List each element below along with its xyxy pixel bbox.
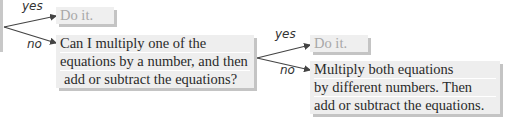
question-line-2: equations by a number, and then — [60, 53, 250, 71]
branch2-yes-label: yes — [275, 27, 296, 41]
result-line-2: by different numbers. Then — [314, 79, 496, 97]
question-line-1: Can I multiply one of the — [60, 35, 250, 53]
question-box: Can I multiply one of the equations by a… — [56, 35, 254, 88]
branch1-no-label: no — [27, 37, 42, 51]
branch2-do-it-box: Do it. — [310, 35, 368, 52]
result-line-1: Multiply both equations — [314, 61, 496, 79]
branch2-do-it-text: Do it. — [314, 35, 364, 52]
question-line-3: add or subtract the equations? — [60, 71, 250, 88]
branch1-do-it-box: Do it. — [56, 7, 114, 24]
branch1-yes-label: yes — [22, 0, 43, 13]
result-box: Multiply both equations by different num… — [310, 61, 500, 114]
branch1-do-it-text: Do it. — [60, 7, 110, 24]
result-line-3: add or subtract the equations. — [314, 97, 496, 114]
branch2-no-label: no — [280, 63, 295, 77]
